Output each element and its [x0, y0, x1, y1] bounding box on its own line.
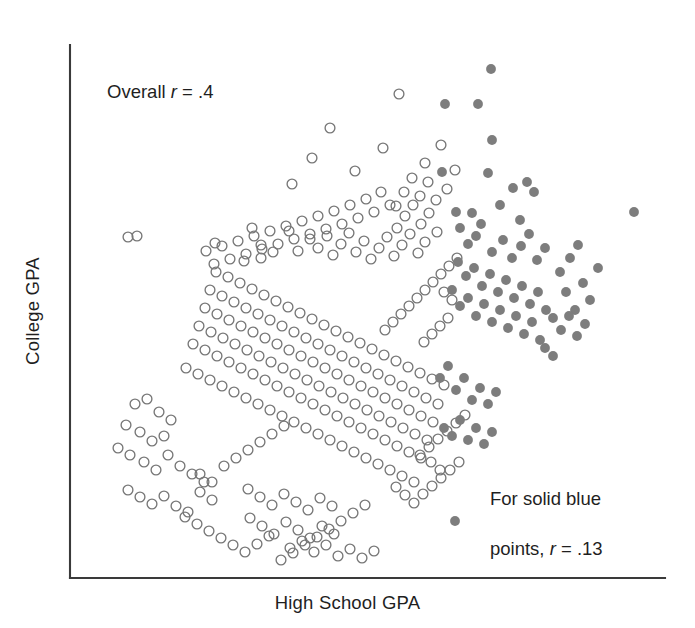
data-point-open: [224, 357, 234, 367]
data-point-open: [397, 240, 407, 250]
data-point-open: [313, 429, 323, 439]
data-point-open: [265, 405, 275, 415]
data-point-open: [405, 229, 415, 239]
data-point-open: [356, 381, 366, 391]
data-point-open: [427, 481, 437, 491]
data-point-open: [147, 436, 157, 446]
data-point-open: [329, 206, 339, 216]
data-point-open: [259, 290, 269, 300]
data-point-solid: [483, 399, 493, 409]
data-point-open: [289, 234, 299, 244]
data-point-solid: [437, 167, 447, 177]
data-point-open: [361, 453, 371, 463]
data-point-open: [337, 219, 347, 229]
data-point-open: [344, 417, 354, 427]
data-point-solid: [487, 247, 497, 257]
data-point-open: [385, 375, 395, 385]
data-point-open: [279, 421, 289, 431]
data-point-open: [147, 499, 157, 509]
data-point-open: [113, 443, 123, 453]
data-point-open: [193, 369, 203, 379]
data-point-open: [420, 158, 430, 168]
data-point-open: [200, 345, 210, 355]
data-point-open: [253, 309, 263, 319]
data-point-open: [450, 165, 460, 175]
data-point-open: [271, 296, 281, 306]
data-point-open: [296, 393, 306, 403]
data-point-solid: [479, 299, 489, 309]
data-point-open: [293, 246, 303, 256]
data-point-open: [272, 339, 282, 349]
data-point-open: [130, 399, 140, 409]
data-point-open: [369, 546, 379, 556]
data-point-open: [325, 345, 335, 355]
data-point-open: [301, 423, 311, 433]
data-point-open: [301, 333, 311, 343]
data-point-solid: [508, 183, 518, 193]
data-point-open: [400, 490, 410, 500]
data-point-solid: [451, 207, 461, 217]
data-point-open: [166, 415, 176, 425]
data-point-open: [349, 357, 359, 367]
data-point-solid: [476, 219, 486, 229]
data-point-open: [205, 375, 215, 385]
data-point-solid: [439, 423, 449, 433]
data-point-solid: [511, 311, 521, 321]
data-point-open: [447, 295, 457, 305]
annotation-subgroup-correlation: For solid blue points, r = .13: [490, 461, 603, 586]
data-point-solid: [578, 278, 588, 288]
data-point-solid: [487, 135, 497, 145]
data-point-open: [409, 387, 419, 397]
data-point-open: [398, 423, 408, 433]
data-point-open: [278, 363, 288, 373]
data-point-open: [422, 435, 432, 445]
data-point-open: [397, 381, 407, 391]
data-point-solid: [565, 253, 575, 263]
data-point-open: [389, 251, 399, 261]
data-point-open: [159, 431, 169, 441]
data-point-solid: [447, 431, 457, 441]
data-point-solid: [540, 243, 550, 253]
data-point-open: [424, 442, 434, 452]
data-point-solid: [479, 439, 489, 449]
data-point-open: [428, 277, 438, 287]
data-point-open: [290, 369, 300, 379]
data-point-open: [397, 471, 407, 481]
data-point-open: [361, 363, 371, 373]
data-point-solid: [487, 427, 497, 437]
data-point-solid: [463, 293, 473, 303]
data-point-open: [315, 493, 325, 503]
data-point-solid: [515, 215, 525, 225]
data-point-open: [344, 228, 354, 238]
data-point-solid: [629, 207, 639, 217]
data-point-open: [236, 321, 246, 331]
data-point-solid: [471, 311, 481, 321]
data-point-solid: [509, 293, 519, 303]
data-point-open: [201, 246, 211, 256]
data-point-open: [388, 317, 398, 327]
data-point-open: [236, 363, 246, 373]
data-point-solid: [548, 351, 558, 361]
data-point-open: [243, 484, 253, 494]
data-point-solid: [483, 168, 493, 178]
data-point-open: [416, 411, 426, 421]
data-point-open: [345, 544, 355, 554]
data-point-open: [245, 513, 255, 523]
y-axis-label: College GPA: [22, 216, 44, 406]
data-series-solid-points: [435, 64, 639, 526]
data-point-open: [368, 429, 378, 439]
data-point-open: [391, 201, 401, 211]
data-point-solid: [580, 319, 590, 329]
data-point-open: [380, 393, 390, 403]
data-point-open: [248, 369, 258, 379]
data-point-solid: [524, 229, 534, 239]
data-point-open: [241, 303, 251, 313]
data-point-open: [404, 405, 414, 415]
data-point-open: [338, 393, 348, 403]
data-point-open: [200, 303, 210, 313]
data-point-solid: [487, 317, 497, 327]
data-point-solid: [447, 285, 457, 295]
data-point-open: [313, 243, 323, 253]
data-point-solid: [516, 241, 526, 251]
data-point-solid: [503, 323, 513, 333]
